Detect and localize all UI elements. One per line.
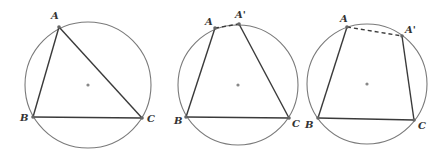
segment-CA bbox=[59, 27, 142, 118]
center-point bbox=[365, 82, 368, 85]
vertex-A-prime bbox=[237, 22, 241, 26]
center-point bbox=[236, 83, 239, 86]
vertex-label: A bbox=[204, 16, 213, 27]
vertex-label: A' bbox=[234, 9, 246, 20]
vertex-label: A' bbox=[404, 24, 416, 35]
vertex-C bbox=[287, 116, 291, 120]
segment-AB bbox=[318, 27, 347, 118]
vertex-label: C bbox=[292, 118, 300, 129]
segment-CAp bbox=[239, 24, 289, 118]
vertex-label: C bbox=[147, 113, 155, 124]
figure-2: AA'BC bbox=[173, 9, 300, 145]
vertex-label: A bbox=[339, 13, 348, 24]
vertex-B bbox=[316, 116, 320, 120]
vertex-label: A bbox=[50, 10, 59, 21]
segment-BC bbox=[318, 118, 414, 120]
diagram-stage: ABCAA'BCAA'BC bbox=[0, 0, 447, 158]
center-point bbox=[86, 83, 89, 86]
vertex-B bbox=[31, 115, 35, 119]
vertex-C bbox=[140, 116, 144, 120]
vertex-B bbox=[184, 115, 188, 119]
vertex-A bbox=[57, 25, 61, 29]
segment-AB bbox=[186, 28, 215, 117]
segment-BC bbox=[33, 117, 142, 118]
segment-CAp bbox=[402, 36, 414, 120]
figure-1: ABC bbox=[19, 10, 155, 148]
figure-3: AA'BC bbox=[304, 13, 427, 144]
vertex-label: C bbox=[418, 120, 426, 131]
vertex-label: B bbox=[19, 112, 28, 123]
vertex-C bbox=[412, 118, 416, 122]
vertex-label: B bbox=[173, 115, 182, 126]
dashed-segment-AAp bbox=[347, 27, 402, 36]
geometry-figures: ABCAA'BCAA'BC bbox=[0, 0, 447, 158]
segment-AB bbox=[33, 27, 59, 117]
vertex-label: B bbox=[304, 119, 313, 130]
segment-BC bbox=[186, 117, 289, 118]
vertex-A-prime bbox=[400, 34, 404, 38]
vertex-A bbox=[213, 26, 217, 30]
vertex-A bbox=[345, 25, 349, 29]
